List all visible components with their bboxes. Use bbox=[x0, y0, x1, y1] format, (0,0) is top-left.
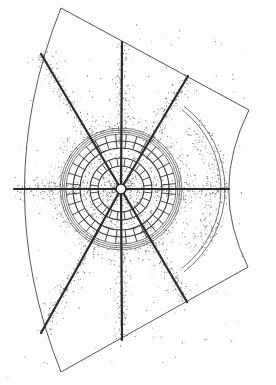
rib-north-east bbox=[121, 76, 188, 189]
oculus bbox=[116, 184, 126, 194]
rib-north bbox=[121, 42, 122, 189]
dome-plan-drawing bbox=[0, 0, 276, 385]
rib-south-east bbox=[121, 189, 187, 302]
stray-mark bbox=[7, 377, 8, 378]
stipple-shading bbox=[15, 24, 246, 364]
rib-south bbox=[121, 189, 122, 340]
